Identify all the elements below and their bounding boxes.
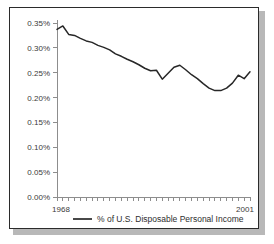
y-tick-label: 0.35% — [27, 19, 50, 28]
y-tick-label: 0.25% — [27, 69, 50, 78]
x-tick-label: 1968 — [52, 205, 70, 214]
y-axis-tick-labels: 0.00%0.05%0.10%0.15%0.20%0.25%0.30%0.35% — [27, 19, 50, 202]
x-axis-tick-marks — [57, 197, 250, 201]
y-axis-tick-marks — [53, 23, 57, 197]
y-tick-label: 0.15% — [27, 118, 50, 127]
line-chart: 0.00%0.05%0.10%0.15%0.20%0.25%0.30%0.35%… — [10, 8, 260, 230]
y-tick-label: 0.05% — [27, 168, 50, 177]
data-series-line — [57, 26, 250, 91]
y-tick-label: 0.00% — [27, 193, 50, 202]
legend-label: % of U.S. Disposable Personal Income — [97, 214, 244, 224]
figure-container: 0.00%0.05%0.10%0.15%0.20%0.25%0.30%0.35%… — [0, 0, 274, 244]
y-tick-label: 0.30% — [27, 44, 50, 53]
y-tick-label: 0.10% — [27, 143, 50, 152]
chart-legend: % of U.S. Disposable Personal Income — [73, 214, 244, 224]
plot-area-wrapper: 0.00%0.05%0.10%0.15%0.20%0.25%0.30%0.35%… — [10, 8, 260, 230]
chart-panel: 0.00%0.05%0.10%0.15%0.20%0.25%0.30%0.35%… — [9, 7, 259, 229]
x-axis-tick-labels: 19682001 — [52, 205, 254, 214]
x-tick-label: 2001 — [236, 205, 254, 214]
y-tick-label: 0.20% — [27, 94, 50, 103]
